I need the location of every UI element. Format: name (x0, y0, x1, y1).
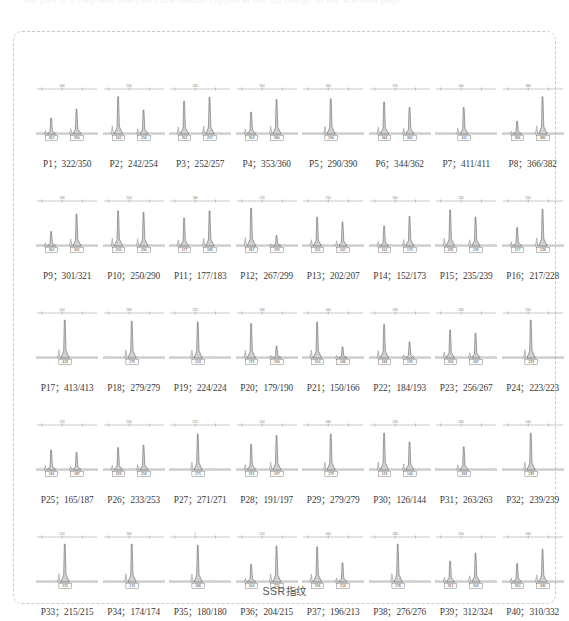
electropherogram-panel[interactable]: 350353360P4；353/360 (234, 72, 301, 184)
electropherogram-panel[interactable]: 170165187P25；165/187 (34, 408, 101, 520)
electropherogram-panel[interactable]: 180174P34；174/174 (101, 520, 168, 621)
svg-text:193: 193 (407, 360, 413, 364)
trace-plot: 250250290 (103, 190, 165, 263)
electropherogram-panel[interactable]: 300290P5；290/390 (300, 72, 367, 184)
panel-label: P28；191/197 (234, 492, 301, 506)
panel-label: P19；224/224 (167, 380, 234, 394)
svg-text:191: 191 (248, 472, 254, 476)
electropherogram-panel[interactable]: 220215P33；215/215 (34, 520, 101, 621)
svg-text:207: 207 (340, 248, 346, 252)
panel-label: P40；310/332 (500, 604, 567, 618)
panel-label: P38；276/276 (367, 604, 434, 618)
electropherogram-panel[interactable]: 160152173P14；152/173 (367, 184, 434, 296)
trace-plot: 240233253 (103, 414, 165, 487)
electropherogram-panel[interactable]: 220224P19；224/224 (167, 296, 234, 408)
svg-text:410: 410 (59, 308, 64, 312)
svg-text:370: 370 (392, 84, 397, 88)
svg-text:202: 202 (315, 248, 321, 252)
electropherogram-panel[interactable]: 280279P18；279/279 (101, 296, 168, 408)
electropherogram-panel[interactable]: 250250290P10；250/290 (101, 184, 168, 296)
electropherogram-panel[interactable]: 180177183P11；177/183 (167, 184, 234, 296)
panel-label: P23；256/267 (433, 380, 500, 394)
svg-text:242: 242 (115, 136, 121, 140)
svg-text:170: 170 (59, 420, 64, 424)
svg-text:224: 224 (195, 360, 201, 364)
electropherogram-panel[interactable]: 260252257P3；252/257 (167, 72, 234, 184)
svg-text:173: 173 (407, 248, 413, 252)
electropherogram-panel[interactable]: 130126144P30；126/144 (367, 408, 434, 520)
trace-plot: 220224 (169, 302, 231, 375)
electropherogram-panel[interactable]: 2180P35；180/180 (167, 520, 234, 621)
panel-label: P37；196/213 (300, 604, 367, 618)
svg-text:240: 240 (525, 420, 530, 424)
trace-plot: 270271 (169, 414, 231, 487)
electropherogram-panel[interactable]: 210202207P13；202/207 (300, 184, 367, 296)
electropherogram-panel[interactable]: 160150166P21；150/166 (300, 296, 367, 408)
electropherogram-panel[interactable]: 410413P17；413/413 (34, 296, 101, 408)
electropherogram-panel[interactable]: 370344362P6；344/362 (367, 72, 434, 184)
trace-plot: 260252257 (169, 78, 231, 151)
svg-text:271: 271 (195, 472, 201, 476)
electropherogram-panel[interactable]: 240242254P2；242/254 (101, 72, 168, 184)
trace-plot: 260263 (435, 414, 497, 487)
electropherogram-panel[interactable]: 240239P32；239/239 (500, 408, 567, 520)
svg-text:126: 126 (381, 472, 387, 476)
svg-text:239: 239 (473, 248, 479, 252)
svg-text:290: 290 (59, 196, 64, 200)
electropherogram-panel[interactable]: 260256267P23；256/267 (433, 296, 500, 408)
svg-text:223: 223 (528, 360, 534, 364)
svg-text:228: 228 (540, 248, 546, 252)
electropherogram-panel[interactable]: 200196213P37；196/213 (300, 520, 367, 621)
svg-text:250: 250 (126, 196, 131, 200)
electropherogram-panel[interactable]: 180179190P20；179/190 (234, 296, 301, 408)
electropherogram-panel[interactable]: 310312324P39；312/324 (433, 520, 500, 621)
electropherogram-panel[interactable]: 200191197P28；191/197 (234, 408, 301, 520)
electropherogram-panel[interactable]: 220217228P16；217/228 (500, 184, 567, 296)
electropherogram-panel[interactable]: 270267299P12；267/299 (234, 184, 301, 296)
panel-label: P21；150/166 (300, 380, 367, 394)
svg-text:350: 350 (259, 84, 264, 88)
svg-text:360: 360 (274, 136, 280, 140)
electropherogram-panel[interactable]: 280279P29；279/279 (300, 408, 367, 520)
electropherogram-panel[interactable]: 230235239P15；235/239 (433, 184, 500, 296)
electropherogram-panel[interactable]: 290301321P9；301/321 (34, 184, 101, 296)
svg-text:270: 270 (192, 420, 197, 424)
electropherogram-panel[interactable]: 260263P31；263/263 (433, 408, 500, 520)
electropherogram-panel[interactable]: 240233253P26；233/253 (101, 408, 168, 520)
panel-label: P6；344/362 (367, 156, 434, 170)
svg-text:260: 260 (458, 420, 463, 424)
trace-plot: 340322350 (36, 78, 98, 151)
svg-text:280: 280 (126, 308, 131, 312)
electropherogram-panel[interactable]: 340322350P1；322/350 (34, 72, 101, 184)
svg-text:322: 322 (49, 136, 55, 140)
electropherogram-panel[interactable]: 270271P27；271/271 (167, 408, 234, 520)
panel-label: P18；279/279 (101, 380, 168, 394)
electropherogram-panel[interactable]: 210204215P36；204/215 (234, 520, 301, 621)
svg-text:144: 144 (407, 472, 413, 476)
svg-text:220: 220 (192, 308, 197, 312)
electropherogram-panel[interactable]: 280276P38；276/276 (367, 520, 434, 621)
svg-text:160: 160 (392, 196, 397, 200)
electropherogram-panel[interactable]: 400411P7；411/411 (433, 72, 500, 184)
electropherogram-panel[interactable]: 220223P24；223/223 (500, 296, 567, 408)
electropherogram-panel[interactable]: 330310332P40；310/332 (500, 520, 567, 621)
svg-text:180: 180 (259, 308, 264, 312)
trace-plot: 260256267 (435, 302, 497, 375)
panel-label: P33；215/215 (34, 604, 101, 618)
trace-plot: 400411 (435, 78, 497, 151)
svg-text:279: 279 (328, 472, 334, 476)
panel-label: P2；242/254 (101, 156, 168, 170)
panel-label: P7；411/411 (433, 156, 500, 170)
svg-text:252: 252 (182, 136, 188, 140)
electropherogram-panel[interactable]: 190184193P22；184/193 (367, 296, 434, 408)
panel-label: P14；152/173 (367, 268, 434, 282)
panel-label: P26；233/253 (101, 492, 168, 506)
electropherogram-panel[interactable]: 380366382P8；366/382 (500, 72, 567, 184)
trace-plot: 230235239 (435, 190, 497, 263)
svg-text:362: 362 (407, 136, 413, 140)
trace-plot: 220217228 (502, 190, 564, 263)
panel-label: P17；413/413 (34, 380, 101, 394)
trace-plot: 410413 (36, 302, 98, 375)
svg-text:411: 411 (461, 136, 467, 140)
svg-text:200: 200 (325, 532, 330, 536)
